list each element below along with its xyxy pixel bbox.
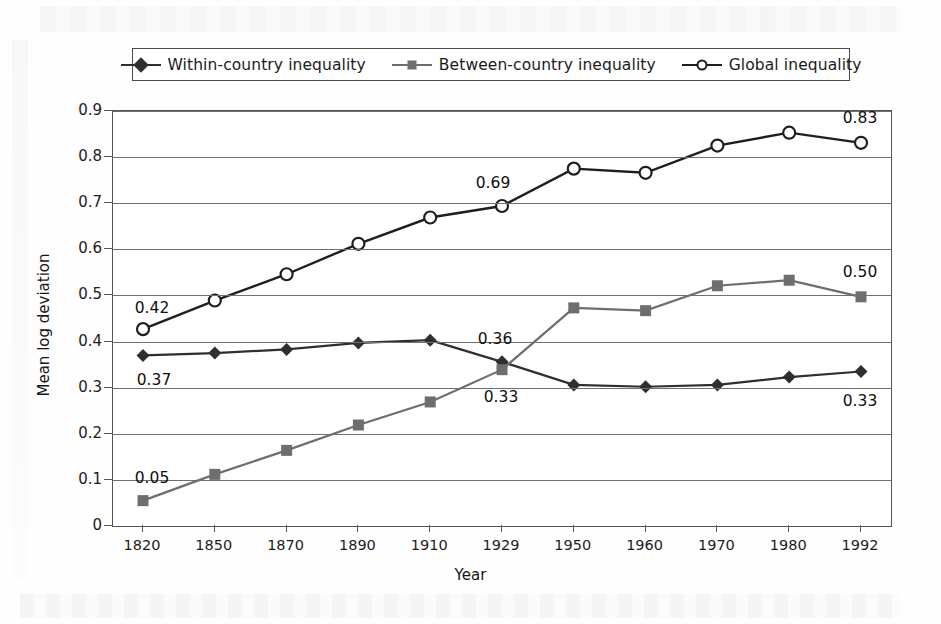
- gridline: [113, 295, 891, 296]
- x-axis-title: Year: [0, 566, 941, 584]
- x-tick-mark: [788, 525, 789, 532]
- square-data-point: [568, 302, 579, 313]
- square-data-point: [209, 469, 220, 480]
- data-value-label: 0.42: [135, 299, 170, 317]
- x-tick-mark: [357, 525, 358, 532]
- x-tick-mark: [142, 525, 143, 532]
- square-data-point: [497, 364, 508, 375]
- circle-data-point: [352, 238, 364, 250]
- y-tick-label: 0.3: [78, 378, 102, 396]
- y-tick-mark: [104, 479, 112, 480]
- y-tick-mark: [104, 433, 112, 434]
- data-value-label: 0.69: [476, 174, 511, 192]
- diamond-marker-icon: [121, 58, 161, 72]
- circle-data-point: [281, 268, 293, 280]
- y-tick-label: 0.8: [78, 147, 102, 165]
- square-data-point: [640, 305, 651, 316]
- square-data-point: [138, 495, 149, 506]
- diamond-data-point: [280, 343, 293, 356]
- gridline: [113, 157, 891, 158]
- series-line: [143, 133, 861, 329]
- gridline: [113, 249, 891, 250]
- x-tick-mark: [501, 525, 502, 532]
- legend-item-0[interactable]: Within-country inequality: [121, 56, 366, 74]
- x-tick-label: 1929: [483, 537, 520, 553]
- legend-item-label: Between-country inequality: [439, 56, 656, 74]
- data-value-label: 0.05: [135, 469, 170, 487]
- diamond-data-point: [783, 371, 796, 384]
- legend-item-2[interactable]: Global inequality: [682, 56, 862, 74]
- x-tick-mark: [286, 525, 287, 532]
- legend-item-label: Within-country inequality: [168, 56, 366, 74]
- y-axis-title: Mean log deviation: [35, 125, 53, 525]
- circle-data-point: [855, 137, 867, 149]
- y-tick-label: 0.5: [78, 285, 102, 303]
- square-data-point: [784, 275, 795, 286]
- y-tick-label: 0.4: [78, 332, 102, 350]
- circle-data-point: [640, 167, 652, 179]
- y-tick-mark: [104, 248, 112, 249]
- data-value-label: 0.37: [137, 371, 172, 389]
- y-tick-mark: [104, 341, 112, 342]
- square-data-point: [425, 396, 436, 407]
- diamond-data-point: [208, 347, 221, 360]
- square-data-point: [281, 445, 292, 456]
- legend-marker-glyph-icon: [696, 59, 707, 70]
- gridline: [113, 111, 891, 112]
- diamond-data-point: [352, 336, 365, 349]
- data-value-label: 0.50: [843, 263, 878, 281]
- circle-data-point: [424, 212, 436, 224]
- diamond-data-point: [424, 334, 437, 347]
- diamond-data-point: [137, 349, 150, 362]
- diamond-data-point: [855, 365, 868, 378]
- x-tick-mark: [429, 525, 430, 532]
- diamond-data-point: [711, 378, 724, 391]
- x-tick-label: 1950: [554, 537, 591, 553]
- y-tick-mark: [104, 525, 112, 526]
- square-marker-icon: [392, 58, 432, 72]
- x-tick-mark: [860, 525, 861, 532]
- x-tick-mark: [573, 525, 574, 532]
- x-tick-label: 1910: [411, 537, 448, 553]
- y-tick-mark: [104, 387, 112, 388]
- circle-data-point: [137, 323, 149, 335]
- x-tick-label: 1850: [195, 537, 232, 553]
- y-tick-mark: [104, 110, 112, 111]
- chart-legend: Within-country inequalityBetween-country…: [132, 48, 850, 81]
- figure-root: Within-country inequalityBetween-country…: [0, 0, 941, 624]
- y-tick-mark: [104, 202, 112, 203]
- data-value-label: 0.83: [843, 109, 878, 127]
- gridline: [113, 203, 891, 204]
- circle-data-point: [568, 163, 580, 175]
- x-tick-label: 1890: [339, 537, 376, 553]
- gridline: [113, 480, 891, 481]
- y-tick-label: 0.9: [78, 101, 102, 119]
- x-tick-label: 1992: [842, 537, 879, 553]
- x-tick-label: 1970: [698, 537, 735, 553]
- y-axis-title-wrap: Mean log deviation: [12, 120, 52, 520]
- data-value-label: 0.33: [843, 392, 878, 410]
- y-tick-label: 0.6: [78, 239, 102, 257]
- legend-marker-glyph-icon: [133, 57, 149, 73]
- y-tick-label: 0.1: [78, 470, 102, 488]
- y-tick-mark: [104, 294, 112, 295]
- x-tick-mark: [214, 525, 215, 532]
- x-tick-label: 1960: [626, 537, 663, 553]
- legend-marker-glyph-icon: [407, 60, 416, 69]
- circle-data-point: [783, 127, 795, 139]
- legend-item-label: Global inequality: [729, 56, 862, 74]
- x-tick-mark: [716, 525, 717, 532]
- y-tick-label: 0: [92, 516, 102, 534]
- gridline: [113, 434, 891, 435]
- square-data-point: [712, 280, 723, 291]
- plot-area: [112, 110, 892, 527]
- data-value-label: 0.36: [478, 330, 513, 348]
- legend-item-1[interactable]: Between-country inequality: [392, 56, 656, 74]
- y-tick-mark: [104, 156, 112, 157]
- x-tick-mark: [645, 525, 646, 532]
- x-tick-label: 1870: [267, 537, 304, 553]
- circle-marker-icon: [682, 58, 722, 72]
- y-tick-label: 0.7: [78, 193, 102, 211]
- data-value-label: 0.33: [484, 388, 519, 406]
- x-tick-label: 1980: [770, 537, 807, 553]
